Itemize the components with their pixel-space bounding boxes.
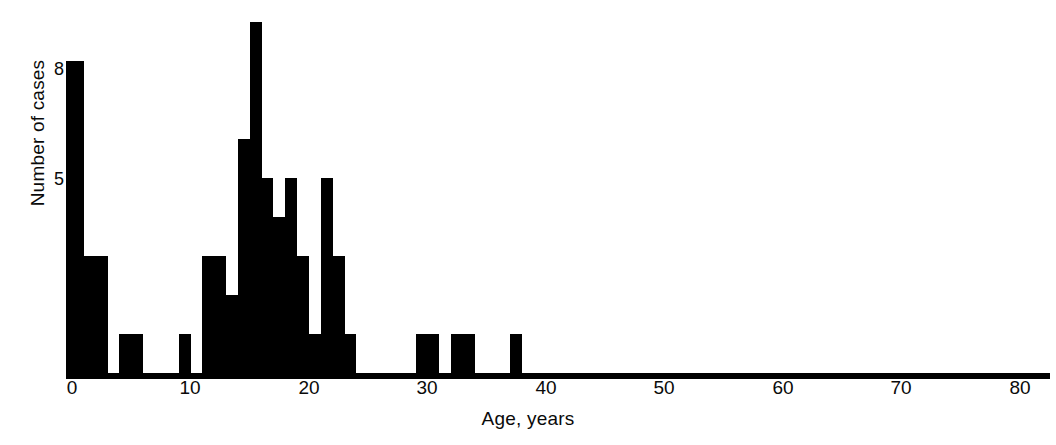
x-axis-title: Age, years	[0, 408, 1056, 430]
bar-age-4	[119, 334, 131, 373]
bar-age-29	[416, 334, 428, 373]
bar-age-0	[72, 61, 84, 373]
bar-age-33	[463, 334, 475, 373]
histogram-figure: 8 5 0 10 20 30 40 50 60 70 80 Number of …	[0, 0, 1056, 445]
x-tick-label-0: 0	[47, 378, 97, 397]
histogram-bars	[0, 0, 1056, 400]
bar-age-13	[226, 295, 238, 373]
bar-age-2	[96, 256, 108, 373]
y-axis-title: Number of cases	[27, 23, 49, 243]
bar-age-5	[131, 334, 143, 373]
bar-age-9	[179, 334, 191, 373]
bar-group	[72, 22, 522, 373]
bar-age-37	[510, 334, 522, 373]
x-tick-label-10: 10	[165, 378, 215, 397]
bar-age-19	[297, 256, 309, 373]
bar-age-21	[321, 178, 333, 373]
x-tick-label-30: 30	[402, 378, 452, 397]
x-tick-label-60: 60	[758, 378, 808, 397]
bar-age-12	[214, 256, 226, 373]
bar-age-15	[250, 22, 262, 373]
plot-area: 8 5 0 10 20 30 40 50 60 70 80	[0, 0, 1056, 400]
x-tick-label-50: 50	[639, 378, 689, 397]
bar-age-32	[451, 334, 463, 373]
bar-age-14	[238, 139, 250, 373]
bar-age-30	[428, 334, 440, 373]
x-tick-label-40: 40	[521, 378, 571, 397]
bar-age-22	[333, 256, 345, 373]
x-tick-label-80: 80	[995, 378, 1045, 397]
bar-age-20	[309, 334, 321, 373]
bar-age-18	[285, 178, 297, 373]
bar-age-11	[202, 256, 214, 373]
bar-age-1	[84, 256, 96, 373]
x-tick-label-70: 70	[876, 378, 926, 397]
bar-age-23	[345, 334, 357, 373]
x-tick-label-20: 20	[284, 378, 334, 397]
bar-age-16	[262, 178, 274, 373]
bar-age-17	[273, 217, 285, 373]
